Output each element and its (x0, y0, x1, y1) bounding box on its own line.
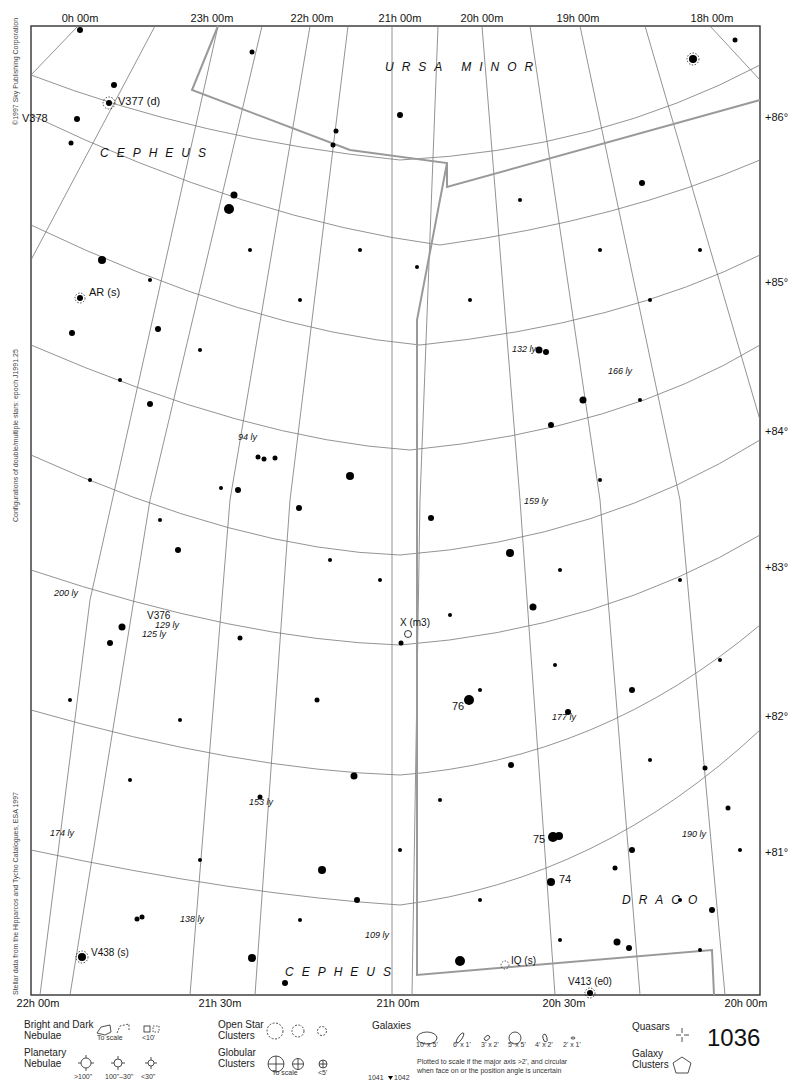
label-ar: AR (s) (89, 286, 120, 298)
source-text: Stellar data from the Hipparcos and Tych… (12, 792, 19, 995)
legend-symbols (0, 1010, 802, 1082)
label-v377: V377 (d) (118, 95, 160, 107)
dec-label: +81° (765, 846, 788, 858)
ra-label-top: 23h 00m (191, 12, 234, 24)
ra-label-top: 21h 00m (379, 12, 422, 24)
ra-label-bottom: 21h 30m (199, 997, 242, 1009)
label-distance: 159 ly (524, 496, 548, 506)
label-distance: 177 ly (552, 712, 576, 722)
constellation-cepheus-bottom: CEPHEUS (285, 965, 399, 979)
chart-frame (31, 26, 760, 995)
label-distance: 109 ly (365, 930, 389, 940)
ra-label-bottom: 21h 00m (377, 997, 420, 1009)
dark-nebula-icon (117, 1024, 129, 1033)
coordinate-grid (31, 26, 760, 995)
label-distance: 125 ly (142, 629, 166, 639)
label-iq: IQ (s) (511, 955, 536, 966)
constellation-draco: DRACO (622, 893, 705, 907)
label-v438: V438 (s) (91, 947, 129, 958)
constellation-boundaries (192, 26, 760, 995)
page-pointer-icon (388, 1076, 393, 1080)
galaxy-cluster-icon (673, 1057, 691, 1073)
ra-label-top: 19h 00m (557, 12, 600, 24)
epoch-text: Configurations of double/multiple stars:… (12, 349, 19, 522)
label-v378: V378 (22, 112, 48, 124)
globular-cluster-x (405, 631, 412, 638)
dec-label: +83° (765, 561, 788, 573)
label-76: 76 (452, 700, 464, 712)
label-distance: 132 ly (512, 344, 536, 354)
variable-star-markers (75, 53, 699, 998)
stars (68, 27, 742, 996)
ra-label-top: 18h 00m (691, 12, 734, 24)
dec-label: +86° (765, 111, 788, 123)
label-74: 74 (559, 873, 571, 885)
label-distance: 138 ly (180, 914, 204, 924)
dec-label: +84° (765, 425, 788, 437)
label-75: 75 (533, 833, 545, 845)
ra-label-bottom: 20h 00m (725, 997, 768, 1009)
open-cluster-icon (267, 1023, 283, 1039)
ra-label-top: 20h 00m (461, 12, 504, 24)
constellation-cepheus-top: CEPHEUS (100, 146, 214, 160)
label-distance: 94 ly (238, 432, 257, 442)
galaxy-icon (417, 1032, 437, 1044)
planetary-nebula-icon (81, 1058, 91, 1068)
quasar-icon (676, 1028, 689, 1042)
small-nebula-icon (144, 1026, 150, 1032)
ra-label-top: 22h 00m (291, 12, 334, 24)
label-distance: 200 ly (54, 588, 78, 598)
label-distance: 166 ly (608, 366, 632, 376)
copyright-text: ©1997 Sky Publishing Corporation (12, 18, 19, 125)
label-x-m3: X (m3) (400, 617, 430, 628)
label-distance: 153 ly (249, 797, 273, 807)
nebula-icon (97, 1025, 111, 1035)
dec-label: +85° (765, 276, 788, 288)
label-v413: V413 (e0) (568, 976, 612, 987)
ra-label-bottom: 20h 30m (543, 997, 586, 1009)
ra-label-bottom: 22h 00m (17, 997, 60, 1009)
star-chart (0, 0, 802, 1082)
label-distance: 190 ly (682, 829, 706, 839)
label-distance: 174 ly (50, 828, 74, 838)
constellation-ursa-minor: URSA MINOR (385, 60, 541, 74)
ra-label-top: 0h 00m (62, 12, 99, 24)
dec-label: +82° (765, 710, 788, 722)
